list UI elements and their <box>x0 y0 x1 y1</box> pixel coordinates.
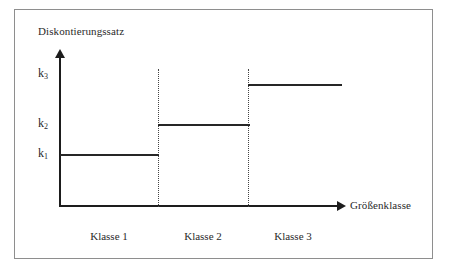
y-tick-label-k2: k2 <box>22 116 48 131</box>
y-axis-line <box>59 57 61 207</box>
y-tick-label-k1: k1 <box>22 146 48 161</box>
y-axis-label: Diskontierungssatz <box>38 25 124 37</box>
figure-frame <box>14 9 433 259</box>
y-tick-k3-subscript: 3 <box>44 72 48 81</box>
figure-container: Diskontierungssatz Größenklasse k3 k2 k1… <box>0 0 456 273</box>
arrow-up-icon <box>55 49 65 58</box>
x-category-label-klasse-1: Klasse 1 <box>64 230 154 242</box>
class-boundary-line-1 <box>158 69 159 207</box>
class-boundary-line-2 <box>248 69 249 207</box>
x-category-label-klasse-3: Klasse 3 <box>248 230 338 242</box>
x-axis-label: Größenklasse <box>350 199 411 211</box>
step-segment-k1 <box>60 154 159 156</box>
step-segment-k2 <box>158 124 250 126</box>
y-tick-k1-subscript: 1 <box>44 152 48 161</box>
y-tick-k2-subscript: 2 <box>44 122 48 131</box>
x-category-label-klasse-2: Klasse 2 <box>158 230 248 242</box>
y-tick-label-k3: k3 <box>22 66 48 81</box>
x-axis-line <box>59 205 339 207</box>
arrow-right-icon <box>337 201 346 211</box>
step-segment-k3 <box>248 84 342 86</box>
